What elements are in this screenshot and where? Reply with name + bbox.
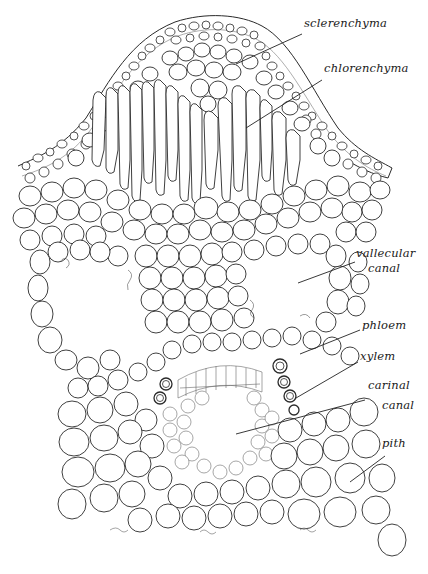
- label-chlorenchyma: chlorenchyma: [324, 61, 409, 76]
- label-pith: pith: [382, 436, 406, 451]
- label-carinal-canal: canal: [382, 398, 414, 413]
- left-vallecular-canal: [28, 240, 132, 379]
- label-xylem: xylem: [360, 349, 395, 364]
- stem-cross-section-diagram: sclerenchyma chlorenchyma vallecular can…: [0, 0, 428, 574]
- label-vallecular: vallecular: [356, 246, 415, 261]
- cortex-parenchyma: [13, 176, 390, 250]
- sclerenchyma-pointer: [236, 34, 302, 64]
- central-parenchyma-column: [135, 242, 254, 333]
- right-vallecular-canal: [244, 234, 369, 332]
- label-sclerenchyma: sclerenchyma: [304, 16, 387, 31]
- label-vallecular-canal: canal: [368, 261, 400, 276]
- label-carinal: carinal: [368, 378, 410, 393]
- cross-section-drawing: [0, 0, 428, 574]
- chlorenchyma-palisade: [92, 80, 300, 204]
- label-phloem: phloem: [362, 318, 406, 333]
- xylem-pointer: [296, 362, 358, 398]
